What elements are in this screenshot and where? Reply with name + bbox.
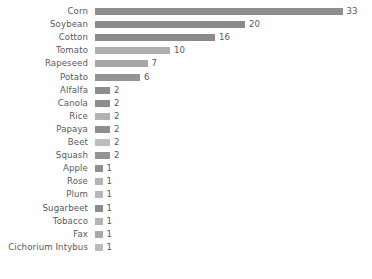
bar [95, 178, 103, 185]
category-label: Plum [0, 188, 88, 201]
bar-row: Rose1 [0, 175, 372, 188]
bar [95, 34, 215, 41]
value-label: 1 [107, 175, 112, 188]
bar [95, 60, 148, 67]
bar-row: Tobacco1 [0, 215, 372, 228]
bar-row: Plum1 [0, 188, 372, 201]
category-label: Beet [0, 136, 88, 149]
bar-chart: Corn33Soybean20Cotton16Tomato10Rapeseed7… [0, 0, 372, 279]
bar-row: Papaya2 [0, 123, 372, 136]
bar [95, 231, 103, 238]
bar [95, 87, 110, 94]
bar [95, 21, 245, 28]
value-label: 1 [107, 215, 112, 228]
category-label: Papaya [0, 123, 88, 136]
bar-row: Soybean20 [0, 18, 372, 31]
bar-row: Beet2 [0, 136, 372, 149]
bar [95, 47, 170, 54]
category-label: Corn [0, 5, 88, 18]
category-label: Fax [0, 228, 88, 241]
bar [95, 139, 110, 146]
bar-row: Rice2 [0, 110, 372, 123]
category-label: Cichorium Intybus [0, 241, 88, 254]
value-label: 10 [174, 44, 185, 57]
bar-row: Fax1 [0, 228, 372, 241]
category-label: Cotton [0, 31, 88, 44]
value-label: 2 [114, 149, 119, 162]
bar [95, 113, 110, 120]
value-label: 20 [249, 18, 260, 31]
value-label: 2 [114, 84, 119, 97]
bar-row: Cichorium Intybus1 [0, 241, 372, 254]
value-label: 33 [347, 5, 358, 18]
bar [95, 100, 110, 107]
category-label: Rice [0, 110, 88, 123]
category-label: Apple [0, 162, 88, 175]
value-label: 2 [114, 123, 119, 136]
category-label: Rapeseed [0, 57, 88, 70]
bar-row: Rapeseed7 [0, 57, 372, 70]
category-label: Potato [0, 71, 88, 84]
bar [95, 191, 103, 198]
value-label: 1 [107, 202, 112, 215]
bar-row: Cotton16 [0, 31, 372, 44]
bar [95, 8, 343, 15]
category-label: Rose [0, 175, 88, 188]
category-label: Soybean [0, 18, 88, 31]
bar [95, 244, 103, 251]
bar [95, 165, 103, 172]
value-label: 2 [114, 110, 119, 123]
bar-row: Alfalfa2 [0, 84, 372, 97]
value-label: 7 [152, 57, 157, 70]
bar-row: Apple1 [0, 162, 372, 175]
bar [95, 74, 140, 81]
category-label: Tobacco [0, 215, 88, 228]
value-label: 1 [107, 162, 112, 175]
bar [95, 205, 103, 212]
bar [95, 218, 103, 225]
value-label: 1 [107, 228, 112, 241]
bar-row: Sugarbeet1 [0, 202, 372, 215]
value-label: 6 [144, 71, 149, 84]
value-label: 16 [219, 31, 230, 44]
category-label: Tomato [0, 44, 88, 57]
bar-row: Tomato10 [0, 44, 372, 57]
bar [95, 126, 110, 133]
value-label: 2 [114, 97, 119, 110]
bar-row: Potato6 [0, 71, 372, 84]
bar-row: Corn33 [0, 5, 372, 18]
category-label: Squash [0, 149, 88, 162]
value-label: 2 [114, 136, 119, 149]
bar-row: Squash2 [0, 149, 372, 162]
bar [95, 152, 110, 159]
value-label: 1 [107, 241, 112, 254]
plot-area: Corn33Soybean20Cotton16Tomato10Rapeseed7… [0, 0, 372, 279]
category-label: Canola [0, 97, 88, 110]
bar-row: Canola2 [0, 97, 372, 110]
category-label: Sugarbeet [0, 202, 88, 215]
value-label: 1 [107, 188, 112, 201]
category-label: Alfalfa [0, 84, 88, 97]
